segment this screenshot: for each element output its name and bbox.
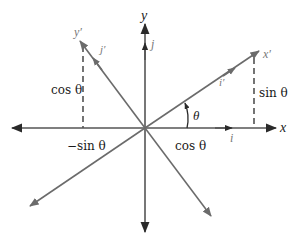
cos-theta-left-label: cos θ: [51, 83, 82, 97]
angle-theta-label: θ: [193, 108, 200, 123]
unit-vector-i-prime-arrow-icon: [223, 68, 235, 76]
negative-sin-theta-label: −sin θ: [67, 139, 106, 153]
x-axis-label: x: [279, 120, 287, 135]
cos-theta-bottom-label: cos θ: [175, 139, 206, 153]
y-axis-label: y: [139, 8, 148, 23]
angle-theta-arc: [185, 103, 188, 128]
rotated-axes-diagram: y x x′ y′ j i i′ j′ θ cos θ sin θ −sin θ…: [0, 0, 294, 243]
x-prime-axis: [145, 51, 259, 128]
y-prime-axis-label: y′: [73, 25, 82, 39]
y-prime-axis: [80, 41, 145, 128]
sin-theta-right-label: sin θ: [259, 86, 288, 100]
x-prime-axis-label: x′: [262, 47, 271, 61]
unit-vector-i-label: i: [230, 131, 233, 145]
unit-vector-j-label: j: [149, 37, 155, 51]
unit-vector-j-prime-arrow-icon: [93, 58, 102, 70]
unit-vector-j-prime-label: j′: [98, 43, 106, 55]
unit-vector-i-prime-label: i′: [219, 76, 225, 88]
